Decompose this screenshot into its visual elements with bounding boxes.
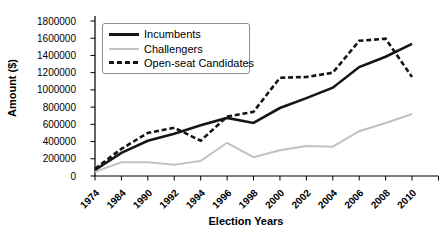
y-tick-label: 1000000 [37, 84, 76, 95]
incumbents-line-sample-icon [109, 33, 139, 36]
figure: 0200000400000600000800000100000012000001… [0, 0, 444, 238]
x-tick-label: 2010 [395, 187, 419, 211]
x-tick-label: 2006 [342, 187, 366, 211]
legend-label-open-seat: Open-seat Candidates [144, 57, 254, 69]
x-axis-title: Election Years [0, 215, 444, 227]
x-tick-label: 2000 [263, 187, 287, 211]
y-axis-title: Amount ($) [6, 59, 18, 117]
x-tick-label: 2004 [316, 187, 340, 211]
x-tick-label: 1994 [184, 187, 208, 211]
legend-label-challengers: Challengers [144, 43, 203, 55]
x-tick-label: 2002 [289, 187, 313, 211]
y-tick-label: 600000 [43, 119, 77, 130]
legend-item-open-seat: Open-seat Candidates [109, 57, 243, 69]
y-tick-label: 1800000 [37, 16, 76, 27]
legend-item-incumbents: Incumbents [109, 28, 243, 40]
open-seat-line-sample-icon [109, 61, 139, 64]
y-tick-label: 1400000 [37, 50, 76, 61]
challengers-line-sample-icon [109, 48, 139, 50]
y-tick-label: 800000 [43, 102, 77, 113]
legend-item-challengers: Challengers [109, 43, 243, 55]
x-tick-label: 1990 [131, 187, 155, 211]
x-tick-label: 1996 [210, 187, 234, 211]
y-tick-label: 400000 [43, 136, 77, 147]
x-tick-label: 1998 [236, 187, 260, 211]
x-tick-label: 1992 [157, 187, 181, 211]
legend: Incumbents Challengers Open-seat Candida… [102, 23, 250, 74]
y-tick-label: 200000 [43, 153, 77, 164]
y-tick-label: 1200000 [37, 67, 76, 78]
x-tick-label: 1984 [104, 187, 128, 211]
x-tick-label: 2008 [369, 187, 393, 211]
y-tick-label: 0 [70, 171, 76, 182]
legend-label-incumbents: Incumbents [144, 28, 201, 40]
y-tick-label: 1600000 [37, 33, 76, 44]
x-tick-label: 1974 [78, 187, 102, 211]
